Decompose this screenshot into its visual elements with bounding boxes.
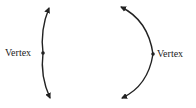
diagram: Vertex Vertex — [0, 0, 196, 108]
vertex-label-left: Vertex — [5, 48, 31, 58]
vertex-point — [41, 51, 45, 55]
vertex-label-right: Vertex — [157, 49, 183, 59]
narrow-parabola — [41, 8, 50, 98]
wide-parabola — [121, 7, 155, 98]
vertex-point — [151, 52, 155, 56]
